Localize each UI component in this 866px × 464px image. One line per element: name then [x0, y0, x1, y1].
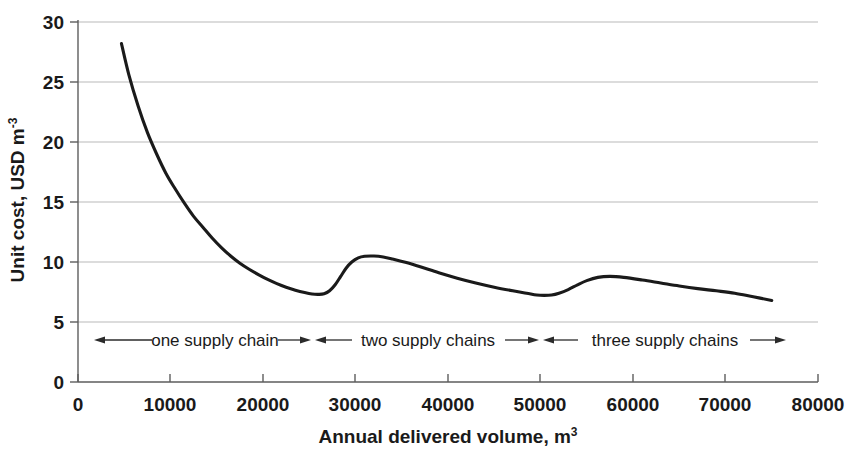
y-tick-label-0: 0: [53, 372, 64, 393]
band-1-right-arrowhead-icon: [300, 337, 311, 344]
y-tick-label-10: 10: [43, 252, 64, 273]
band-2-right-arrowhead-icon: [528, 337, 539, 344]
x-tick-label-60000: 60000: [607, 394, 660, 415]
y-tick-label-30: 30: [43, 12, 64, 33]
band-3-label: three supply chains: [592, 331, 738, 350]
x-axis-title: Annual delivered volume, m3: [318, 425, 577, 447]
x-tick-label-20000: 20000: [237, 394, 290, 415]
y-tick-label-5: 5: [53, 312, 64, 333]
y-tick-label-20: 20: [43, 132, 64, 153]
band-2-left-arrowhead-icon: [315, 337, 326, 344]
svg-text:Unit cost, USD m-3: Unit cost, USD m-3: [6, 117, 28, 282]
x-tick-label-0: 0: [73, 394, 84, 415]
band-2-label: two supply chains: [361, 331, 495, 350]
x-axis-title-base: Annual delivered volume, m: [318, 426, 570, 447]
chart-figure: 30 25 20 15 10 5 0 Unit cost, USD m-3 0: [0, 0, 866, 464]
y-axis-title-base: Unit cost, USD m: [7, 128, 28, 282]
annotation-bands: one supply chain two supply chains three…: [94, 331, 786, 350]
y-axis-title-superscript: -3: [6, 117, 20, 128]
annotation-band-two-supply-chains: two supply chains: [315, 331, 539, 350]
x-axis-title-superscript: 3: [571, 425, 578, 439]
y-tick-label-15: 15: [43, 192, 65, 213]
x-axis: 0 10000 20000 30000 40000 50000 60000 70…: [73, 374, 845, 415]
unit-cost-line-chart: 30 25 20 15 10 5 0 Unit cost, USD m-3 0: [0, 0, 866, 464]
y-tick-label-25: 25: [43, 72, 65, 93]
x-tick-label-50000: 50000: [514, 394, 567, 415]
band-3-right-arrowhead-icon: [775, 337, 786, 344]
x-tick-label-40000: 40000: [422, 394, 475, 415]
x-tick-label-10000: 10000: [144, 394, 197, 415]
y-axis: 30 25 20 15 10 5 0: [43, 12, 78, 393]
x-tick-label-80000: 80000: [792, 394, 845, 415]
y-axis-title: Unit cost, USD m-3: [6, 117, 28, 282]
x-tick-label-70000: 70000: [699, 394, 752, 415]
band-1-left-arrowhead-icon: [94, 337, 105, 344]
x-tick-label-30000: 30000: [329, 394, 382, 415]
annotation-band-three-supply-chains: three supply chains: [543, 331, 786, 350]
band-1-label: one supply chain: [151, 331, 279, 350]
annotation-band-one-supply-chain: one supply chain: [94, 331, 311, 350]
band-3-left-arrowhead-icon: [543, 337, 554, 344]
